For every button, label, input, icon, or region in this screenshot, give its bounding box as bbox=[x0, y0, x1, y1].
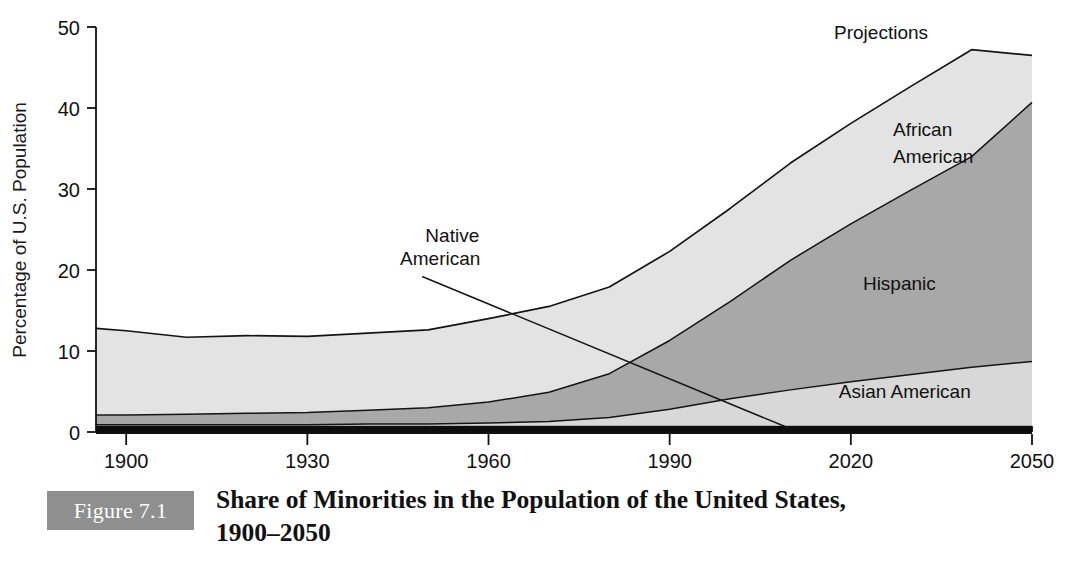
annotation-asian-american: Asian American bbox=[839, 381, 971, 402]
y-tick-label: 30 bbox=[58, 179, 80, 201]
annotation-american: American bbox=[400, 248, 480, 269]
x-tick-label: 1990 bbox=[647, 450, 692, 472]
caption-line-2: 1900–2050 bbox=[216, 517, 846, 550]
annotation-hispanic: Hispanic bbox=[863, 273, 936, 294]
figure-caption-text: Share of Minorities in the Population of… bbox=[216, 484, 846, 549]
annotation-african: African bbox=[893, 119, 952, 140]
y-tick-label: 0 bbox=[69, 422, 80, 444]
figure-caption-row: Figure 7.1 Share of Minorities in the Po… bbox=[0, 483, 1074, 568]
figure-number-badge: Figure 7.1 bbox=[47, 491, 194, 530]
area-band-native-american bbox=[96, 426, 1032, 432]
area-chart: 190019301960199020202050 01020304050 Pro… bbox=[0, 0, 1074, 480]
annotation-projections: Projections bbox=[834, 22, 928, 43]
x-tick-label: 1930 bbox=[285, 450, 330, 472]
figure-container: 190019301960199020202050 01020304050 Pro… bbox=[0, 0, 1074, 568]
caption-line-1: Share of Minorities in the Population of… bbox=[216, 484, 846, 517]
y-tick-label: 20 bbox=[58, 260, 80, 282]
x-tick-label: 2020 bbox=[829, 450, 874, 472]
annotation-native: Native bbox=[425, 225, 479, 246]
x-tick-label: 1960 bbox=[466, 450, 511, 472]
y-tick-label: 10 bbox=[58, 341, 80, 363]
x-tick-label: 1900 bbox=[104, 450, 149, 472]
y-tick-label: 50 bbox=[58, 17, 80, 39]
y-axis-title: Percentage of U.S. Population bbox=[9, 102, 30, 358]
x-tick-label: 2050 bbox=[1010, 450, 1055, 472]
y-tick-label: 40 bbox=[58, 98, 80, 120]
annotation-american: American bbox=[893, 146, 973, 167]
